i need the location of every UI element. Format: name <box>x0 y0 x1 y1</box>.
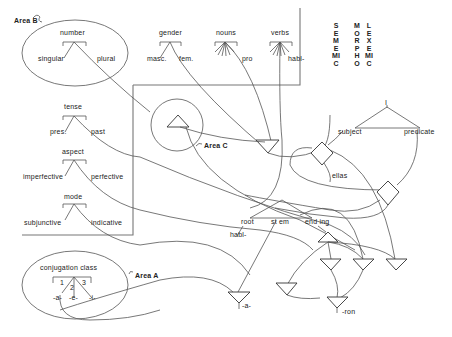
area-a-pointer <box>129 271 133 274</box>
habl-root-label: habl- <box>230 231 247 239</box>
indicative-label: indicative <box>91 219 122 227</box>
fem-label: fem. <box>179 55 193 63</box>
ending-i-label: -i- <box>89 294 96 302</box>
singular-label: singular <box>38 55 64 63</box>
morpho-stratum-label: MORPHO <box>353 22 361 67</box>
conj-3-label: 3 <box>82 279 86 287</box>
ending-branches <box>287 242 395 285</box>
verbs-label: verbs <box>271 29 289 37</box>
curve-mode <box>140 241 250 275</box>
subject-label: subject <box>338 128 362 136</box>
plural-label: plural <box>97 55 115 63</box>
sememic-stratum-label: SEMEMIC <box>332 22 340 67</box>
imperfective-label: imperfective <box>23 173 63 181</box>
area-c-and-node <box>167 115 189 127</box>
habl-verb-label: habl- <box>288 55 305 63</box>
predicate-link <box>397 131 417 185</box>
area-a-label: Area A <box>135 272 159 280</box>
past-label: past <box>91 128 105 136</box>
vowel-or-node <box>276 283 297 295</box>
network-lines <box>0 0 452 337</box>
gender-label: gender <box>159 29 182 37</box>
relational-network-diagram: Area B number singular plural gender mas… <box>0 0 452 337</box>
area-a-ellipse <box>22 251 128 319</box>
ending-and-node <box>318 232 338 242</box>
clause-top-label: I <box>385 99 387 107</box>
predicate-label: predicate <box>404 128 435 136</box>
conj-1-label: 1 <box>60 279 64 287</box>
pro-label: pro <box>242 55 253 63</box>
predicate-or-node <box>377 181 399 205</box>
ending-e-label: -e- <box>69 294 78 302</box>
area-b-label: Area B <box>14 17 38 25</box>
suffix-to-ron-links <box>331 270 363 298</box>
suffix-or-node-1 <box>320 259 341 270</box>
number-node <box>63 42 150 112</box>
upper-to-suffix-links <box>300 150 395 259</box>
aspect-node <box>63 160 140 210</box>
lexemic-stratum-label: LEXEMIC <box>365 22 373 67</box>
verbs-node <box>250 42 292 208</box>
vowel-link <box>287 295 320 299</box>
ending-label: end ing <box>305 218 329 226</box>
mode-label: mode <box>64 193 82 201</box>
tense-label: tense <box>64 103 82 111</box>
ron-and-node <box>327 297 348 308</box>
area-c-pointer <box>196 143 202 146</box>
subjunctive-label: subjunctive <box>24 219 61 227</box>
masc-label: masc. <box>147 55 167 63</box>
area-c-label: Area C <box>204 142 228 150</box>
root-label: root <box>241 218 254 226</box>
stem-label: st em <box>271 218 289 226</box>
conj-2-label: 2 <box>70 284 74 292</box>
ending-a-label: -a- <box>53 294 62 302</box>
aspect-label: aspect <box>62 148 84 156</box>
number-label: number <box>60 29 85 37</box>
pres-label: pres. <box>50 128 67 136</box>
suffix-or-node-3 <box>386 259 407 270</box>
theme-vowel-label: -a- <box>242 302 251 310</box>
conjugation-class-label: conjugation class <box>40 264 97 272</box>
nouns-label: nouns <box>216 29 236 37</box>
clause-and-node <box>355 105 420 128</box>
ellas-label: ellas <box>332 172 347 180</box>
suffix-or-node-2 <box>353 259 374 270</box>
curve-aspect <box>140 210 313 250</box>
perfective-label: perfective <box>91 173 123 181</box>
subject-or-node <box>311 142 333 165</box>
subject-curve <box>290 148 385 190</box>
ron-label: -ron <box>342 308 355 316</box>
